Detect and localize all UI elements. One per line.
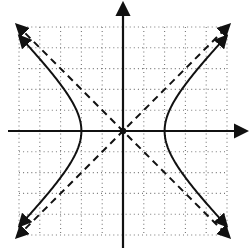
hyperbola-plot (0, 0, 251, 251)
origin-marker (120, 128, 126, 134)
